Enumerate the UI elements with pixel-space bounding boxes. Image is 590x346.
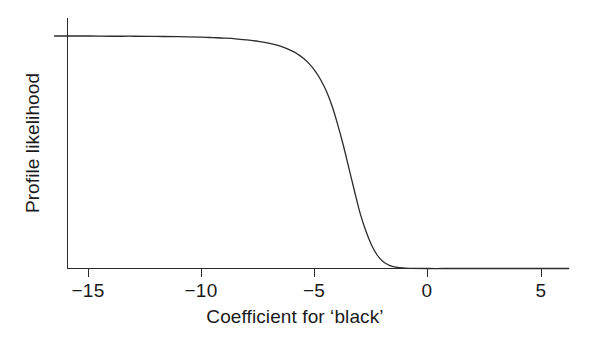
profile-likelihood-chart: −15 −10 −5 0 5 Coefficient for ‘black’ P… xyxy=(0,0,590,346)
x-tick-label--5: −5 xyxy=(303,280,325,302)
x-tick-label--15: −15 xyxy=(72,280,105,302)
x-tick-label-5: 5 xyxy=(536,280,547,302)
x-axis-title: Coefficient for ‘black’ xyxy=(206,306,383,328)
profile-likelihood-curve xyxy=(55,36,569,269)
x-tick-label-0: 0 xyxy=(422,280,433,302)
x-axis-ticks xyxy=(89,269,542,277)
x-tick-label--10: −10 xyxy=(185,280,218,302)
y-axis-title: Profile likelihood xyxy=(22,73,44,213)
